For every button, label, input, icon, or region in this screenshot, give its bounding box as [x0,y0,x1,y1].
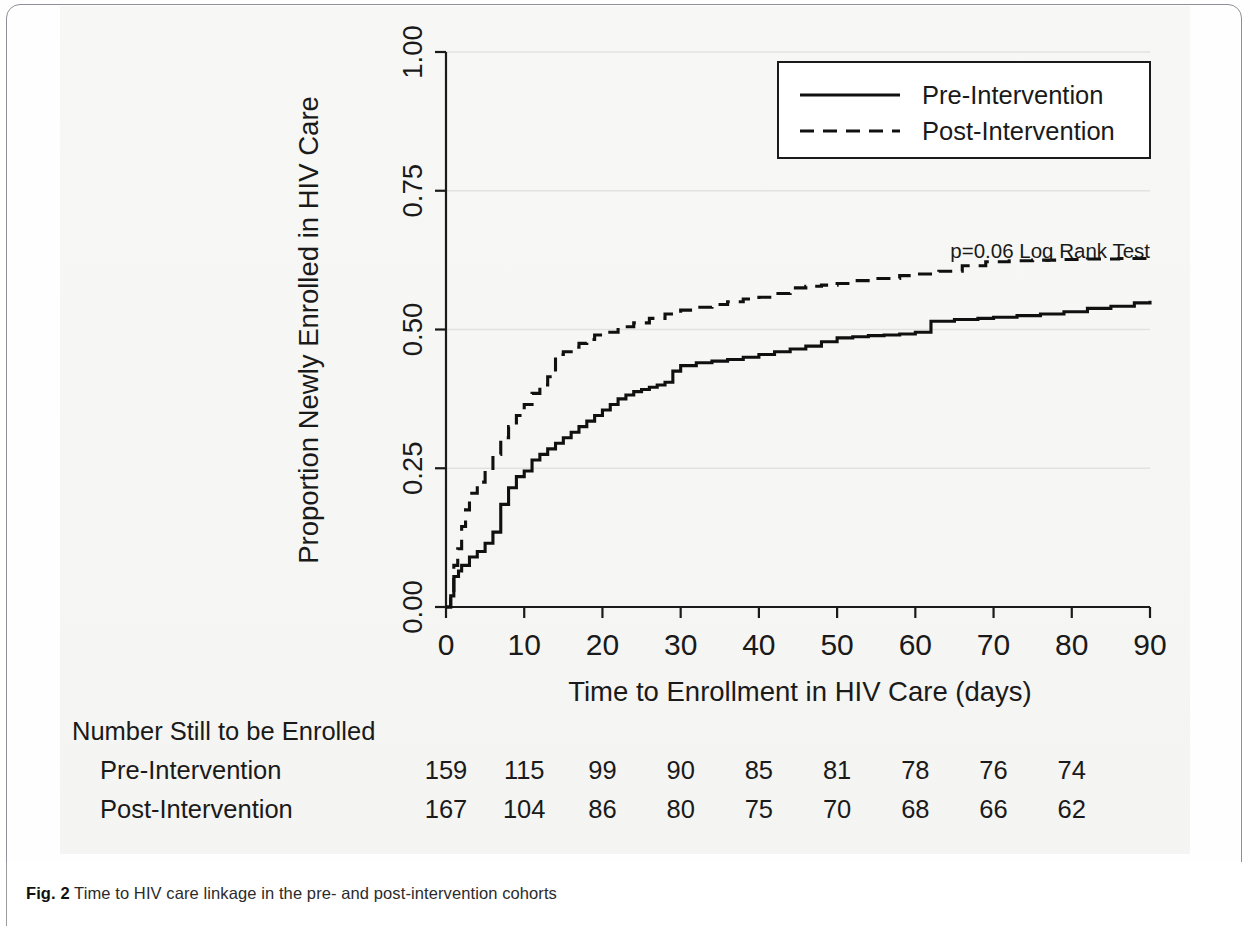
risk-table-cell: 76 [979,756,1007,784]
legend-label-pre-intervention: Pre-Intervention [922,81,1103,109]
risk-table-cell: 99 [588,756,616,784]
risk-table-cell: 86 [588,795,616,823]
y-axis-title: Proportion Newly Enrolled in HIV Care [293,96,324,564]
x-tick-label: 20 [586,628,619,661]
x-tick-label: 70 [977,628,1010,661]
risk-table-cell: 159 [425,756,468,784]
y-tick-label: 1.00 [397,25,428,79]
risk-table-values: 1591159990858178767416710486807570686662 [425,756,1086,823]
x-axis-ticks [446,607,1150,618]
pvalue-annotation: p=0.06 Log Rank Test [950,239,1150,262]
kaplan-meier-chart: 0.000.250.500.751.00 0102030405060708090… [0,0,1249,860]
risk-table-cell: 75 [745,795,773,823]
y-tick-label: 0.50 [397,303,428,357]
risk-table-cell: 66 [979,795,1007,823]
x-tick-label: 0 [438,628,455,661]
chart-legend: Pre-Intervention Post-Intervention [778,62,1150,158]
risk-table-cell: 78 [901,756,929,784]
risk-table-cell: 62 [1058,795,1086,823]
x-tick-label: 10 [508,628,541,661]
risk-table-cell: 85 [745,756,773,784]
figure-caption-label: Fig. 2 [26,884,70,902]
x-tick-label: 40 [742,628,775,661]
risk-table-cell: 80 [666,795,694,823]
risk-table-cell: 81 [823,756,851,784]
risk-table-cell: 115 [504,756,545,784]
figure-page: 0.000.250.500.751.00 0102030405060708090… [0,0,1249,926]
caption-area: Fig. 2 Time to HIV care linkage in the p… [0,862,1249,926]
y-tick-label: 0.00 [397,580,428,634]
figure-caption: Fig. 2 Time to HIV care linkage in the p… [26,884,557,903]
risk-table-row-label-post-intervention: Post-Intervention [100,795,293,823]
risk-table-cell: 68 [901,795,929,823]
risk-table-cell: 74 [1058,756,1086,784]
risk-table: Number Still to be Enrolled Pre-Interven… [72,717,1086,823]
y-tick-label: 0.25 [397,441,428,495]
series-line-post-intervention [446,258,1150,607]
risk-table-row-label-pre-intervention: Pre-Intervention [100,756,281,784]
y-axis-tick-labels: 0.000.250.500.751.00 [397,25,428,634]
risk-table-cell: 70 [823,795,851,823]
caption-rule [6,862,7,926]
y-tick-label: 0.75 [397,164,428,218]
x-axis-title: Time to Enrollment in HIV Care (days) [568,676,1032,707]
x-tick-label: 80 [1055,628,1088,661]
risk-table-cell: 104 [503,795,546,823]
x-tick-label: 90 [1133,628,1166,661]
x-tick-label: 50 [820,628,853,661]
risk-table-cell: 90 [666,756,694,784]
x-axis-tick-labels: 0102030405060708090 [438,628,1167,661]
risk-table-cell: 167 [425,795,468,823]
legend-label-post-intervention: Post-Intervention [922,117,1115,145]
series-line-pre-intervention [446,301,1150,607]
y-axis-ticks [435,52,446,607]
figure-caption-text: Time to HIV care linkage in the pre- and… [74,884,557,902]
x-tick-label: 60 [899,628,932,661]
data-series-layer [446,258,1150,607]
x-tick-label: 30 [664,628,697,661]
figure-area: 0.000.250.500.751.00 0102030405060708090… [0,0,1249,860]
risk-table-title: Number Still to be Enrolled [72,717,375,745]
